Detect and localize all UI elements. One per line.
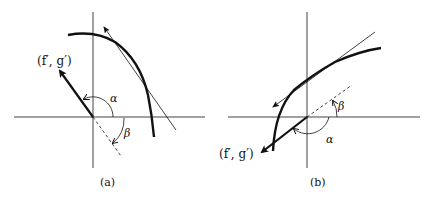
alpha-label: α	[110, 92, 118, 105]
beta-label: β	[123, 127, 130, 140]
alpha-label: α	[326, 133, 334, 146]
tangent-line-arrow	[104, 27, 176, 130]
beta-arc-arrow	[333, 101, 337, 117]
beta-arc-arrow	[113, 118, 124, 143]
gradient-vector-arrow	[262, 117, 307, 152]
panel-caption: (b)	[310, 176, 326, 189]
tangent-line-arrow	[273, 32, 375, 107]
panel-a: (f′, g′) α β (a)	[14, 12, 205, 189]
curve	[68, 34, 154, 137]
panel-caption: (a)	[100, 176, 115, 189]
alpha-arc-arrow	[294, 117, 329, 134]
dashed-direction-line	[93, 117, 121, 156]
vector-label: (f′, g′)	[37, 54, 72, 68]
dashed-direction-line	[307, 85, 352, 117]
panel-b: (f′, g′) α β (b)	[219, 12, 420, 189]
beta-label: β	[337, 100, 344, 113]
gradient-vector-arrow	[60, 71, 93, 117]
vector-label: (f′, g′)	[219, 147, 254, 161]
figure-canvas: (f′, g′) α β (a) (f′, g′) α β (b)	[0, 0, 430, 201]
alpha-arc-arrow	[84, 97, 113, 117]
